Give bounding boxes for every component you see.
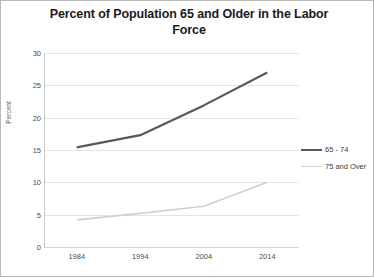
x-axis-tick-labels: 1984199420042014 (45, 252, 299, 266)
y-axis-tick-label: 15 (5, 146, 41, 155)
series-line (77, 182, 268, 220)
chart-title-line-1: Percent of Population 65 and Older in th… (39, 6, 339, 22)
y-axis-tick-label: 10 (5, 178, 41, 187)
chart-legend: 65 - 7475 and Over (301, 141, 373, 175)
y-axis-tick-label: 0 (5, 243, 41, 252)
x-axis-tick-label: 1994 (115, 252, 165, 261)
plot-area (45, 53, 299, 247)
chart-title: Percent of Population 65 and Older in th… (39, 6, 339, 38)
y-axis-tick-labels: 051015202530 (1, 53, 41, 247)
legend-color-swatch (301, 149, 322, 151)
legend-item[interactable]: 65 - 74 (301, 141, 373, 158)
legend-item[interactable]: 75 and Over (301, 158, 373, 175)
legend-label: 65 - 74 (325, 145, 348, 154)
gridline (45, 247, 299, 248)
y-axis-tick-label: 20 (5, 113, 41, 122)
series-line (77, 72, 268, 147)
chart-title-line-2: Force (39, 22, 339, 38)
legend-color-swatch (301, 166, 322, 167)
y-axis-tick-label: 5 (5, 210, 41, 219)
x-axis-tick-label: 2014 (242, 252, 292, 261)
y-axis-tick-label: 30 (5, 49, 41, 58)
chart-container: Percent of Population 65 and Older in th… (0, 0, 374, 277)
series-lines (45, 53, 299, 247)
legend-label: 75 and Over (325, 162, 366, 171)
y-axis-tick-label: 25 (5, 81, 41, 90)
x-axis-tick-label: 1984 (52, 252, 102, 261)
x-axis-tick-label: 2004 (179, 252, 229, 261)
